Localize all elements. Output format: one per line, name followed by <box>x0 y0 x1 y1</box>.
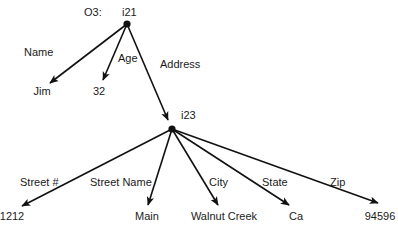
object-node-label: i23 <box>181 109 196 121</box>
edge-label: Zip <box>330 176 345 188</box>
edge-label: Street Name <box>90 176 152 188</box>
edge-arrow-name <box>50 24 127 83</box>
edge-arrow-city <box>172 129 218 205</box>
value-node-label: 1212 <box>0 210 24 222</box>
edge-arrow-zip <box>172 129 378 203</box>
edge-label: Name <box>24 46 53 58</box>
edge-arrow-street-name <box>148 129 172 205</box>
object-node-dot <box>123 20 130 27</box>
value-node-label: Walnut Creek <box>191 210 258 222</box>
object-label: O3: <box>84 6 102 18</box>
value-node-label: 94596 <box>365 210 396 222</box>
value-node-label: Main <box>135 210 159 222</box>
value-node-label: 32 <box>93 85 105 97</box>
value-node-label: Ca <box>289 210 304 222</box>
edge-label: Street # <box>20 176 59 188</box>
object-node-dot <box>168 125 175 132</box>
edge-label: City <box>209 176 228 188</box>
edge-arrow-state <box>172 129 289 205</box>
edge-arrow-street <box>22 129 172 206</box>
object-graph-diagram: O3: NameAgeAddressStreet #Street NameCit… <box>0 0 398 232</box>
edge-label: Address <box>160 58 201 70</box>
value-node-label: Jim <box>33 85 50 97</box>
object-node-label: i21 <box>122 6 137 18</box>
edge-label: Age <box>118 52 138 64</box>
edge-label: State <box>262 176 288 188</box>
edges-layer <box>22 24 378 206</box>
nodes-layer: i21i23Jim321212MainWalnut CreekCa94596 <box>0 6 395 222</box>
edge-arrow-address <box>127 24 168 120</box>
